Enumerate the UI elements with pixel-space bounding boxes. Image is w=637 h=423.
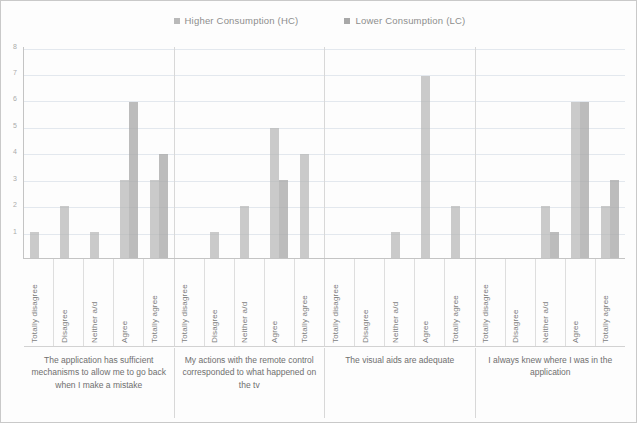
bar-cluster bbox=[24, 47, 54, 258]
bar-cluster bbox=[325, 47, 355, 258]
bar-cluster bbox=[505, 47, 535, 258]
x-tick-text: Totally disagree bbox=[481, 284, 490, 343]
bar-higherconsumptionhc bbox=[240, 206, 249, 258]
x-tick-label: Neither a/d bbox=[84, 259, 114, 346]
chart-legend: Higher Consumption (HC) Lower Consumptio… bbox=[1, 15, 637, 26]
x-tick-label: Agree bbox=[566, 259, 596, 346]
legend-label-lc: Lower Consumption (LC) bbox=[355, 15, 465, 26]
x-tick-text: Totally agree bbox=[150, 295, 159, 343]
group-caption-1: The application has sufficient mechanism… bbox=[24, 348, 175, 418]
bar-higherconsumptionhc bbox=[30, 232, 39, 258]
x-tick-label: Neither a/d bbox=[235, 259, 265, 346]
bar-cluster bbox=[264, 47, 294, 258]
bar-cluster bbox=[535, 47, 565, 258]
bar-lowerconsumptionlc bbox=[580, 102, 589, 258]
bar-group-2 bbox=[175, 47, 326, 258]
y-tick-5: 5 bbox=[13, 122, 17, 129]
group-captions: The application has sufficient mechanism… bbox=[24, 348, 625, 418]
bar-cluster bbox=[84, 47, 114, 258]
x-tick-label: Disagree bbox=[355, 259, 385, 346]
bar-higherconsumptionhc bbox=[90, 232, 99, 258]
bar-higherconsumptionhc bbox=[300, 154, 309, 258]
bar-group-3 bbox=[325, 47, 476, 258]
x-tick-text: Agree bbox=[120, 321, 129, 343]
x-tick-text: Neither a/d bbox=[90, 302, 99, 343]
x-tick-text: Totally agree bbox=[300, 295, 309, 343]
y-axis-labels: 8 7 6 5 4 3 2 1 bbox=[1, 43, 19, 257]
bar-higherconsumptionhc bbox=[571, 102, 580, 258]
group-caption-2: My actions with the remote control corre… bbox=[175, 348, 326, 418]
x-tick-text: Totally disagree bbox=[331, 284, 340, 343]
bar-cluster bbox=[385, 47, 415, 258]
bar-higherconsumptionhc bbox=[210, 232, 219, 258]
x-label-group-2: Totally disagreeDisagreeNeither a/dAgree… bbox=[175, 259, 326, 347]
x-tick-text: Agree bbox=[571, 321, 580, 343]
y-tick-7: 7 bbox=[13, 69, 17, 76]
x-tick-text: Agree bbox=[270, 321, 279, 343]
x-tick-text: Totally disagree bbox=[30, 284, 39, 343]
bar-lowerconsumptionlc bbox=[159, 154, 168, 258]
x-tick-text: Disagree bbox=[361, 309, 370, 343]
bar-lowerconsumptionlc bbox=[550, 232, 559, 258]
y-tick-3: 3 bbox=[13, 175, 17, 182]
bar-lowerconsumptionlc bbox=[129, 102, 138, 258]
x-tick-label: Totally disagree bbox=[476, 259, 506, 346]
x-tick-text: Agree bbox=[421, 321, 430, 343]
x-label-group-3: Totally disagreeDisagreeNeither a/dAgree… bbox=[325, 259, 476, 347]
bar-cluster bbox=[595, 47, 625, 258]
x-axis-category-labels: Totally disagreeDisagreeNeither a/dAgree… bbox=[24, 259, 625, 347]
x-tick-label: Totally disagree bbox=[24, 259, 54, 346]
bar-cluster bbox=[204, 47, 234, 258]
bar-group-4 bbox=[476, 47, 626, 258]
legend-swatch-hc-icon bbox=[174, 18, 180, 24]
x-tick-label: Neither a/d bbox=[536, 259, 566, 346]
x-tick-text: Disagree bbox=[60, 309, 69, 343]
bar-higherconsumptionhc bbox=[391, 232, 400, 258]
x-tick-text: Disagree bbox=[511, 309, 520, 343]
bar-cluster bbox=[565, 47, 595, 258]
bar-cluster bbox=[175, 47, 205, 258]
group-caption-3: The visual aids are adequate bbox=[325, 348, 476, 418]
x-tick-text: Neither a/d bbox=[391, 302, 400, 343]
legend-item-lc: Lower Consumption (LC) bbox=[344, 15, 465, 26]
x-tick-label: Totally agree bbox=[596, 259, 625, 346]
x-tick-text: Totally agree bbox=[451, 295, 460, 343]
bar-cluster bbox=[54, 47, 84, 258]
bar-cluster bbox=[445, 47, 475, 258]
x-tick-label: Agree bbox=[415, 259, 445, 346]
x-tick-label: Disagree bbox=[506, 259, 536, 346]
x-label-group-1: Totally disagreeDisagreeNeither a/dAgree… bbox=[24, 259, 175, 347]
bar-higherconsumptionhc bbox=[421, 76, 430, 258]
bar-cluster bbox=[114, 47, 144, 258]
bar-group-1 bbox=[24, 47, 175, 258]
bar-higherconsumptionhc bbox=[541, 206, 550, 258]
x-tick-label: Agree bbox=[265, 259, 295, 346]
bar-cluster bbox=[234, 47, 264, 258]
bar-cluster bbox=[415, 47, 445, 258]
bar-groups bbox=[24, 47, 625, 258]
x-tick-text: Totally agree bbox=[601, 295, 610, 343]
x-tick-label: Disagree bbox=[205, 259, 235, 346]
bar-chart: Higher Consumption (HC) Lower Consumptio… bbox=[0, 0, 637, 423]
bar-lowerconsumptionlc bbox=[610, 180, 619, 258]
x-tick-label: Totally agree bbox=[144, 259, 173, 346]
y-tick-1: 1 bbox=[13, 228, 17, 235]
bar-cluster bbox=[476, 47, 506, 258]
legend-label-hc: Higher Consumption (HC) bbox=[185, 15, 299, 26]
legend-item-hc: Higher Consumption (HC) bbox=[174, 15, 299, 26]
bar-higherconsumptionhc bbox=[150, 180, 159, 258]
bar-higherconsumptionhc bbox=[451, 206, 460, 258]
x-tick-label: Agree bbox=[114, 259, 144, 346]
bar-cluster bbox=[355, 47, 385, 258]
y-tick-4: 4 bbox=[13, 148, 17, 155]
x-tick-label: Totally agree bbox=[295, 259, 324, 346]
bar-higherconsumptionhc bbox=[60, 206, 69, 258]
bar-higherconsumptionhc bbox=[120, 180, 129, 258]
x-label-group-4: Totally disagreeDisagreeNeither a/dAgree… bbox=[476, 259, 626, 347]
group-caption-4: I always knew where I was in the applica… bbox=[476, 348, 626, 418]
bar-higherconsumptionhc bbox=[270, 128, 279, 258]
x-tick-label: Neither a/d bbox=[385, 259, 415, 346]
y-tick-2: 2 bbox=[13, 201, 17, 208]
x-tick-label: Totally disagree bbox=[175, 259, 205, 346]
x-tick-text: Disagree bbox=[210, 309, 219, 343]
